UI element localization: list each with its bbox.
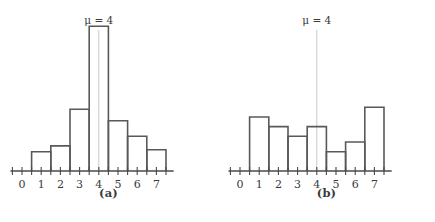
x-axis-group [10, 167, 173, 175]
histogram-bar [288, 136, 307, 171]
x-axis-group [228, 167, 391, 175]
histogram-bar [70, 109, 89, 171]
panel-b: μ = 401234567 (b) [218, 0, 435, 222]
histogram-svg-a: μ = 401234567 [0, 0, 217, 200]
histogram-bar [269, 127, 288, 171]
histogram-plot-b: μ = 401234567 [218, 0, 435, 200]
histogram-bar [108, 121, 127, 171]
panel-caption-a: (a) [0, 186, 217, 200]
histogram-svg-b: μ = 401234567 [218, 0, 435, 200]
mean-label: μ = 4 [302, 14, 331, 26]
panel-caption-b: (b) [218, 186, 435, 200]
histogram-bar [365, 107, 384, 171]
histogram-bar [346, 142, 365, 171]
panel-a: μ = 401234567 (a) [0, 0, 217, 222]
histogram-bar [250, 117, 269, 171]
histogram-plot-a: μ = 401234567 [0, 0, 217, 200]
histogram-bar [128, 136, 147, 171]
mean-label: μ = 4 [84, 14, 113, 26]
histogram-figure: μ = 401234567 (a) μ = 401234567 (b) [0, 0, 435, 222]
